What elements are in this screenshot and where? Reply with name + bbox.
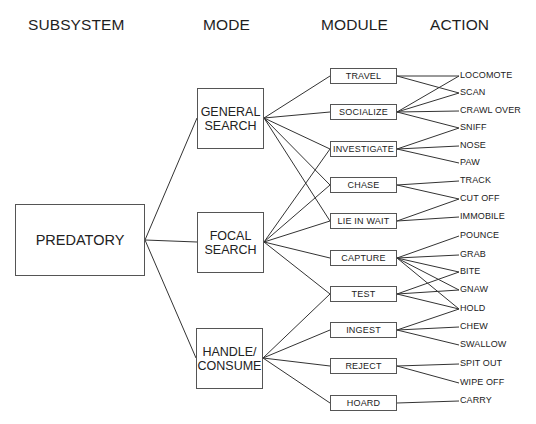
module-investigate: INVESTIGATE [330,141,397,157]
module-socialize: SOCIALIZE [330,104,397,120]
mode-label-line2: SEARCH [204,243,256,257]
edge-socialize-scan [397,93,459,112]
module-lie-in-wait: LIE IN WAIT [330,213,397,229]
edge-general_search-socialize [264,112,330,118]
behavior-system-diagram: SUBSYSTEM MODE MODULE ACTION PREDATORY G… [0,0,536,424]
module-label: CAPTURE [341,253,385,263]
module-travel: TRAVEL [330,68,397,84]
subsystem-predatory: PREDATORY [15,204,145,276]
module-label: TEST [352,289,376,299]
edge-handle_consume-ingest [263,330,330,358]
edge-general_search-chase [264,118,330,185]
edge-capture-grab [397,255,459,258]
edge-reject-wipe_off [397,366,459,383]
edge-travel-scan [397,76,459,93]
edge-chase-track [397,181,459,185]
module-label: CHASE [347,180,379,190]
action-crawl-over: CRAWL OVER [460,105,521,115]
action-scan: SCAN [460,87,485,97]
action-sniff: SNIFF [460,122,487,132]
edge-predatory-focal_search [145,240,197,242]
action-bite: BITE [460,266,480,276]
module-ingest: INGEST [330,322,397,338]
action-grab: GRAB [460,249,486,259]
action-nose: NOSE [460,140,486,150]
mode-label-line1: HANDLE/ [198,345,262,359]
module-reject: REJECT [330,358,397,374]
module-label: SOCIALIZE [339,107,388,117]
edge-focal_search-lie_in_wait [264,221,330,242]
action-gnaw: GNAW [460,284,488,294]
edge-general_search-travel [264,76,330,118]
action-locomote: LOCOMOTE [460,70,512,80]
edge-focal_search-investigate [264,149,330,242]
mode-general-search: GENERALSEARCH [197,88,264,149]
edge-capture-bite [397,258,459,272]
header-mode: MODE [203,16,250,34]
edge-capture-gnaw [397,258,459,290]
action-carry: CARRY [460,395,492,405]
module-label: TRAVEL [346,71,382,81]
header-action: ACTION [430,16,489,34]
action-hold: HOLD [460,303,485,313]
edge-ingest-chew [397,327,459,330]
module-label: LIE IN WAIT [338,216,390,226]
module-label: REJECT [345,361,381,371]
module-capture: CAPTURE [330,250,397,266]
mode-handle-consume: HANDLE/CONSUME [196,328,263,389]
edge-ingest-hold [397,309,459,330]
action-chew: CHEW [460,321,488,331]
action-wipe-off: WIPE OFF [460,377,504,387]
mode-label-line2: CONSUME [198,359,262,373]
header-module: MODULE [321,16,388,34]
edge-focal_search-chase [264,185,330,242]
edge-socialize-crawl_over [397,111,459,112]
module-hoard: HOARD [330,395,397,411]
module-label: INGEST [346,325,381,335]
mode-label-line1: FOCAL [204,229,256,243]
edge-reject-spit_out [397,364,459,366]
edge-socialize-locomote [397,76,459,112]
action-pounce: POUNCE [460,230,499,240]
module-label: INVESTIGATE [333,144,394,154]
action-swallow: SWALLOW [460,339,506,349]
subsystem-label: PREDATORY [36,232,125,248]
mode-focal-search: FOCALSEARCH [197,212,264,273]
action-paw: PAW [460,157,480,167]
edge-socialize-sniff [397,112,459,128]
header-subsystem: SUBSYSTEM [28,16,125,34]
edge-handle_consume-test [263,294,330,358]
action-track: TRACK [460,175,491,185]
edge-investigate-paw [397,149,459,163]
action-cut-off: CUT OFF [460,193,500,203]
module-label: HOARD [347,398,381,408]
action-immobile: IMMOBILE [460,211,505,221]
edge-ingest-swallow [397,330,459,345]
module-test: TEST [330,286,397,302]
edge-investigate-nose [397,146,459,149]
mode-label-line2: SEARCH [201,119,261,133]
edge-investigate-sniff [397,128,459,149]
edge-chase-cut_off [397,185,459,199]
module-chase: CHASE [330,177,397,193]
edge-predatory-general_search [145,118,197,240]
action-spit-out: SPIT OUT [460,358,502,368]
mode-label-line1: GENERAL [201,105,261,119]
edge-predatory-handle_consume [145,240,196,358]
edge-hoard-carry [397,401,459,403]
edge-capture-pounce [397,236,459,258]
